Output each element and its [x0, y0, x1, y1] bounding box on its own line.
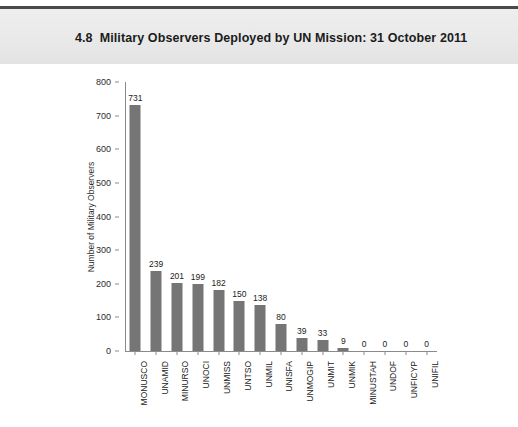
x-axis-label-monusco: MONUSCO	[139, 361, 149, 405]
x-axis-tickmark	[197, 351, 198, 355]
x-axis-tickmark	[280, 351, 281, 355]
y-axis-tick-0: 0	[106, 346, 111, 356]
x-axis-tickmark	[322, 351, 323, 355]
bar-value-label-unmik: 9	[341, 336, 346, 346]
y-axis-tick-400: 400	[96, 212, 111, 222]
x-axis-label-unmogip: UNMOGIP	[305, 361, 315, 402]
bar-value-label-unmogip: 39	[297, 326, 306, 336]
x-axis-label-unmiss: UNMISS	[222, 361, 232, 394]
x-axis-label-undof: UNDOF	[388, 361, 398, 391]
bar-unisfa[interactable]	[275, 324, 286, 351]
y-axis-tick-300: 300	[96, 245, 111, 255]
bar-group-unficyp[interactable]: 0UNFICYP	[395, 82, 416, 351]
y-axis-tick-600: 600	[96, 144, 111, 154]
figure-title-text: Military Observers Deployed by UN Missio…	[100, 31, 468, 45]
x-axis-tickmark	[301, 351, 302, 355]
x-axis-label-unmil: UNMIL	[264, 361, 274, 387]
figure-header-band: 4.8Military Observers Deployed by UN Mis…	[0, 6, 518, 64]
x-axis-tickmark	[156, 351, 157, 355]
bar-value-label-untso: 150	[232, 289, 246, 299]
bar-unmit[interactable]	[317, 340, 328, 351]
bar-unoci[interactable]	[192, 284, 203, 351]
y-axis-tickmark	[115, 182, 119, 183]
y-axis-tickmark	[115, 82, 119, 83]
bar-group-undof[interactable]: 0UNDOF	[375, 82, 396, 351]
bar-value-label-unmit: 33	[318, 328, 327, 338]
bar-group-minurso[interactable]: 201MINURSO	[167, 82, 188, 351]
x-axis-tickmark	[260, 351, 261, 355]
bar-value-label-unifil: 0	[424, 339, 429, 349]
x-axis-tickmark	[218, 351, 219, 355]
bar-group-unifil[interactable]: 0UNIFIL	[416, 82, 437, 351]
x-axis-tickmark	[426, 351, 427, 355]
x-axis-label-untso: UNTSO	[243, 361, 253, 391]
bar-unmiss[interactable]	[213, 290, 224, 351]
plot-area: 731MONUSCO239UNAMID201MINURSO199UNOCI182…	[125, 82, 437, 351]
bar-value-label-unoci: 199	[191, 272, 205, 282]
bar-group-unmit[interactable]: 33UNMIT	[312, 82, 333, 351]
bar-value-label-unamid: 239	[149, 259, 163, 269]
x-axis-label-unmit: UNMIT	[326, 361, 336, 388]
bar-group-untso[interactable]: 150UNTSO	[229, 82, 250, 351]
bar-group-unmiss[interactable]: 182UNMISS	[208, 82, 229, 351]
x-axis-label-minurso: MINURSO	[180, 361, 190, 401]
bar-monusco[interactable]	[130, 105, 141, 351]
y-axis-tick-700: 700	[96, 111, 111, 121]
y-axis-tickmark	[115, 115, 119, 116]
y-axis-tick-500: 500	[96, 178, 111, 188]
y-axis-tickmark	[115, 283, 119, 284]
bar-group-minustah[interactable]: 0MINUSTAH	[354, 82, 375, 351]
bar-group-unoci[interactable]: 199UNOCI	[187, 82, 208, 351]
bar-group-unisfa[interactable]: 80UNISFA	[271, 82, 292, 351]
x-axis-tickmark	[239, 351, 240, 355]
y-axis-tick-labels: 0100200300400500600700800	[0, 82, 119, 351]
bar-minurso[interactable]	[171, 283, 182, 351]
x-axis-label-minustah: MINUSTAH	[368, 361, 378, 405]
bar-unamid[interactable]	[151, 271, 162, 351]
x-axis-tickmark	[364, 351, 365, 355]
bar-group-unmik[interactable]: 9UNMIK	[333, 82, 354, 351]
x-axis-tickmark	[343, 351, 344, 355]
bar-value-label-monusco: 731	[128, 93, 142, 103]
x-axis-label-unamid: UNAMID	[160, 361, 170, 395]
bar-group-monusco[interactable]: 731MONUSCO	[125, 82, 146, 351]
x-axis-label-unmik: UNMIK	[347, 361, 357, 388]
y-axis-tickmark	[115, 250, 119, 251]
bar-value-label-minurso: 201	[170, 271, 184, 281]
y-axis-tickmark	[115, 351, 119, 352]
figure-number: 4.8	[75, 31, 93, 45]
y-axis-tickmark	[115, 149, 119, 150]
bar-group-unamid[interactable]: 239UNAMID	[146, 82, 167, 351]
bar-value-label-unisfa: 80	[276, 312, 285, 322]
y-axis-tick-800: 800	[96, 77, 111, 87]
x-axis-label-unifil: UNIFIL	[430, 361, 440, 388]
bar-value-label-undof: 0	[383, 339, 388, 349]
x-axis-tickmark	[384, 351, 385, 355]
bar-value-label-unmil: 138	[253, 293, 267, 303]
y-axis-tick-200: 200	[96, 279, 111, 289]
x-axis-tickmark	[135, 351, 136, 355]
y-axis-tickmark	[115, 317, 119, 318]
x-axis-label-unoci: UNOCI	[201, 361, 211, 388]
x-axis-tickmark	[405, 351, 406, 355]
y-axis-tick-100: 100	[96, 312, 111, 322]
x-axis-tickmark	[176, 351, 177, 355]
bar-group-unmogip[interactable]: 39UNMOGIP	[291, 82, 312, 351]
x-axis-label-unisfa: UNISFA	[284, 361, 294, 392]
bar-value-label-unficyp: 0	[403, 339, 408, 349]
page-title: 4.8Military Observers Deployed by UN Mis…	[75, 31, 467, 45]
x-axis-label-unficyp: UNFICYP	[409, 361, 419, 398]
bar-untso[interactable]	[234, 301, 245, 351]
bar-value-label-unmiss: 182	[211, 278, 225, 288]
bar-chart: Number of Military Observers 01002003004…	[0, 64, 518, 427]
bar-group-unmil[interactable]: 138UNMIL	[250, 82, 271, 351]
y-axis-tickmark	[115, 216, 119, 217]
bar-unmogip[interactable]	[296, 338, 307, 351]
bar-value-label-minustah: 0	[362, 339, 367, 349]
bar-unmil[interactable]	[255, 305, 266, 351]
